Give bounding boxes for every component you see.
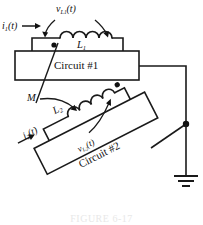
figure-container: vL1(t) i1(t) L1 M L2 i2(t) vL2(t) Circui… bbox=[0, 0, 203, 225]
label-L1: L1 bbox=[77, 40, 86, 51]
dot-convention-inductor-1 bbox=[51, 42, 56, 47]
inductor-1-right-lead bbox=[112, 38, 123, 51]
dot-convention-inductor-2 bbox=[114, 81, 121, 88]
figure-caption: FIGURE 6-17 bbox=[0, 213, 203, 224]
i1-arrow-head bbox=[35, 23, 41, 29]
v-l2-arrow-head bbox=[105, 99, 114, 108]
ground-icon bbox=[174, 176, 198, 186]
label-circuit-1: Circuit #1 bbox=[54, 60, 98, 71]
label-v-l1: vL1(t) bbox=[56, 4, 76, 15]
wire-circuit2-to-junction bbox=[151, 124, 186, 148]
circuit-diagram-svg bbox=[0, 0, 203, 225]
inductor-1-coil bbox=[60, 32, 112, 38]
label-i1: i1(t) bbox=[2, 21, 17, 32]
v-l1-arrow-left-head bbox=[42, 32, 48, 38]
label-M: M bbox=[27, 93, 36, 104]
